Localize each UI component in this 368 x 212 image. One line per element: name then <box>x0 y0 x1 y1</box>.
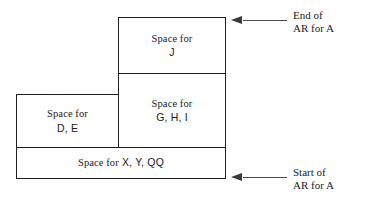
stack-frame-ghi: Space for G, H, I <box>118 73 226 148</box>
stack-frame-xyqq-label: Space for X, Y, QQ <box>78 156 164 169</box>
annotation-end-line2: AR for A <box>293 22 334 35</box>
left-arrow-icon <box>231 16 242 24</box>
stack-layout-diagram: Space for J Space for G, H, I Space for … <box>0 0 368 212</box>
stack-frame-ghi-label: Space for G, H, I <box>152 98 193 124</box>
stack-frame-xyqq: Space for X, Y, QQ <box>16 147 226 179</box>
annotation-end-of-ar-text: End of AR for A <box>293 9 334 35</box>
annotation-start-line1: Start of <box>293 166 334 179</box>
annotation-start-of-ar-text: Start of AR for A <box>293 166 334 192</box>
stack-frame-j: Space for J <box>118 17 226 74</box>
stack-frame-j-contents: J <box>152 46 193 58</box>
annotation-end-line1: End of <box>293 9 334 22</box>
stack-frame-de: Space for D, E <box>16 94 119 148</box>
stack-frame-xyqq-contents: X, Y, QQ <box>122 156 164 168</box>
stack-frame-ghi-contents: G, H, I <box>152 111 193 123</box>
left-arrow-icon <box>231 173 242 181</box>
annotation-leader-line <box>243 177 287 178</box>
stack-frame-de-label: Space for D, E <box>47 108 88 134</box>
annotation-leader-line <box>243 20 287 21</box>
stack-frame-ghi-prefix: Space for <box>152 98 193 109</box>
stack-frame-j-label: Space for J <box>152 33 193 59</box>
stack-frame-j-prefix: Space for <box>152 33 193 44</box>
stack-frame-xyqq-prefix: Space for <box>78 157 119 168</box>
stack-frame-de-contents: D, E <box>47 122 88 134</box>
stack-frame-de-prefix: Space for <box>47 108 88 119</box>
annotation-start-line2: AR for A <box>293 179 334 192</box>
